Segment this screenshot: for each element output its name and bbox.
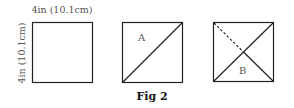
fig-2-diagram: 4in (10.1cm) 4in (10.1cm) A B Fig 2: [0, 0, 294, 108]
panel-fold-a: A: [123, 23, 183, 83]
width-label: 4in (10.1cm): [31, 4, 92, 15]
diagonal-fold-line-lower: [244, 52, 274, 82]
panel-fold-b: B: [214, 23, 274, 82]
panel-square: 4in (10.1cm) 4in (10.1cm): [16, 4, 93, 84]
square-outline: [33, 23, 93, 83]
dashed-fold-line: [214, 23, 244, 52]
figure-caption: Fig 2: [136, 90, 167, 103]
region-label-a: A: [137, 32, 146, 43]
region-label-b: B: [239, 65, 246, 76]
height-label: 4in (10.1cm): [16, 22, 27, 83]
diagonal-fold-line: [123, 23, 183, 83]
